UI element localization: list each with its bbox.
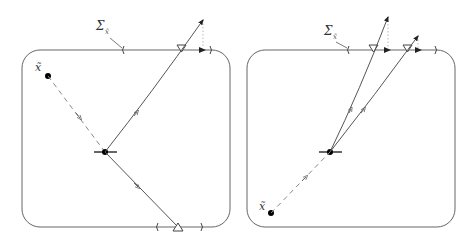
right-sigma-subscript: x̃ bbox=[333, 33, 337, 41]
left-incoming-arrow-icon bbox=[76, 113, 80, 118]
left-sigma-label: Σ bbox=[95, 19, 105, 33]
left-region-boundary bbox=[22, 50, 230, 227]
right-outgoing-path-1 bbox=[330, 17, 388, 152]
left-outgoing-path-up bbox=[105, 20, 203, 152]
left-point-label: x̃ bbox=[35, 61, 42, 74]
diagram-canvas: Σ x̃ x̃ Σ x̃ bbox=[0, 0, 474, 242]
right-point-label: x̃ bbox=[259, 200, 266, 213]
right-incoming-arrow-icon bbox=[302, 177, 306, 181]
right-boundary-arrow-icon-1 bbox=[384, 47, 391, 53]
left-outgoing-path-down bbox=[105, 152, 178, 227]
right-region-boundary bbox=[247, 50, 455, 227]
right-incoming-dashed bbox=[271, 152, 330, 213]
left-sigma-leader bbox=[110, 38, 122, 48]
right-sigma-leader bbox=[336, 42, 347, 48]
left-sigma-subscript: x̃ bbox=[105, 28, 109, 36]
right-panel: Σ x̃ x̃ bbox=[247, 17, 455, 227]
left-panel: Σ x̃ x̃ bbox=[22, 19, 230, 231]
right-sigma-label: Σ bbox=[323, 24, 333, 38]
left-boundary-arrow-icon bbox=[199, 47, 206, 53]
